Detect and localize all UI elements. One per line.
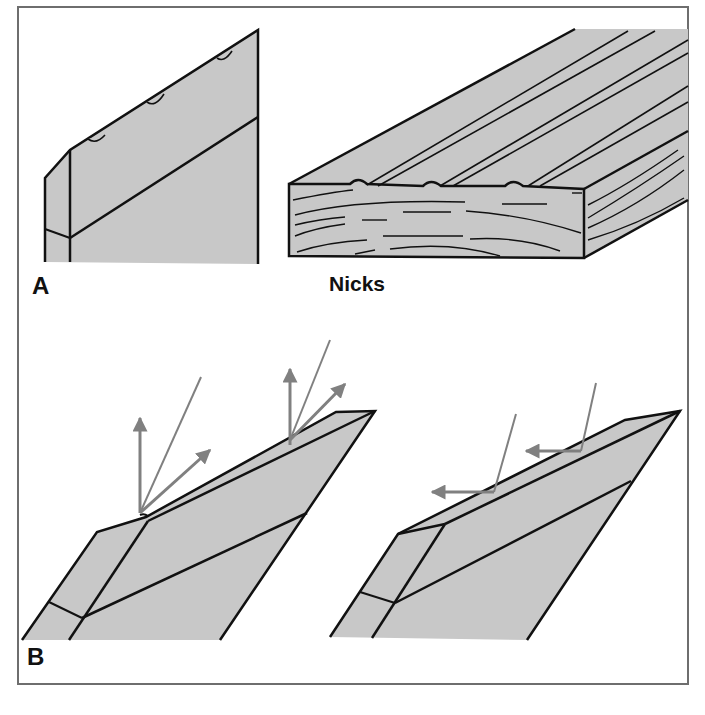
panel-b-right-blade bbox=[330, 383, 680, 640]
panel-a-board bbox=[289, 29, 688, 258]
nicks-caption: Nicks bbox=[329, 272, 385, 296]
panel-a-blade bbox=[45, 30, 258, 264]
figure-illustration bbox=[0, 0, 705, 715]
panel-b-left-blade bbox=[22, 340, 375, 640]
panel-a-label: A bbox=[32, 272, 49, 300]
panel-b-label: B bbox=[27, 643, 44, 671]
